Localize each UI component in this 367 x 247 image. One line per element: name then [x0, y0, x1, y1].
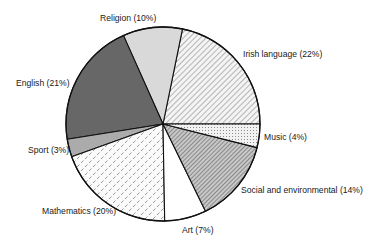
pie-slices	[66, 27, 260, 221]
label-irish-language: Irish language (22%)	[243, 49, 322, 59]
pie-chart: Religion (10%) Irish language (22%) Engl…	[0, 0, 367, 247]
label-english: English (21%)	[16, 78, 70, 88]
label-religion: Religion (10%)	[100, 13, 157, 23]
label-music: Music (4%)	[264, 132, 307, 142]
label-mathematics: Mathematics (20%)	[42, 206, 116, 216]
label-art: Art (7%)	[182, 225, 214, 235]
label-sport: Sport (3%)	[28, 145, 69, 155]
label-social-environmental: Social and environmental (14%)	[241, 185, 363, 195]
